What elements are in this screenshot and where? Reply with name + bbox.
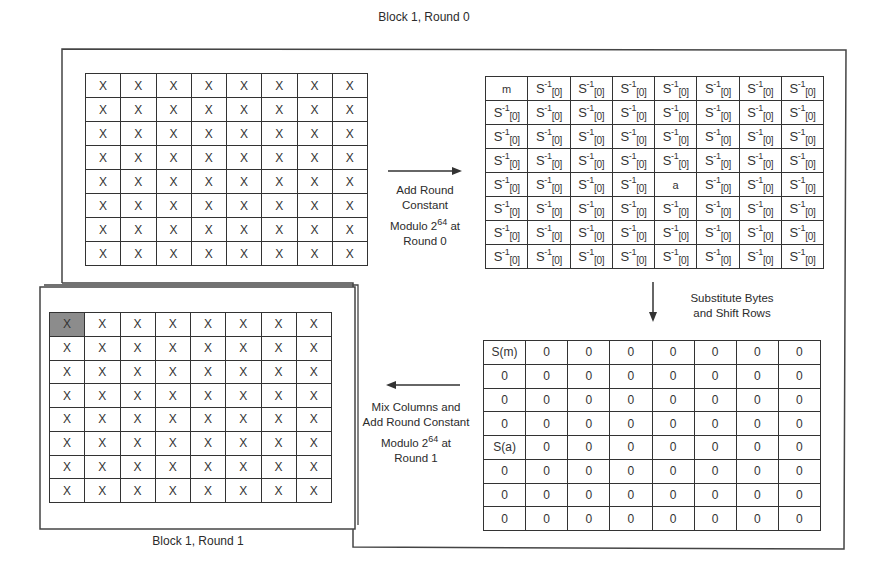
grid-cell: X	[262, 98, 297, 122]
grid-cell: X	[297, 122, 332, 146]
grid-cell: X	[85, 479, 120, 503]
grid-row: 00000000	[484, 388, 821, 412]
inverse-sbox-value: S-1[0]	[578, 153, 604, 168]
grid-cell: S-1[0]	[570, 197, 612, 221]
grid-cell: S-1[0]	[739, 197, 781, 221]
grid-cell: 0	[526, 388, 568, 412]
grid-cell: X	[191, 122, 226, 146]
grid-cell: S-1[0]	[655, 101, 697, 125]
inverse-sbox-value: S-1[0]	[536, 249, 562, 264]
grid-cell: 0	[568, 436, 610, 460]
grid-cell: X	[297, 98, 332, 122]
inverse-sbox-value: S-1[0]	[536, 81, 562, 96]
grid-cell: S-1[0]	[486, 149, 528, 173]
grid-cell: 0	[652, 483, 694, 507]
grid-cell: X	[332, 74, 367, 98]
inverse-sbox-value: S-1[0]	[789, 153, 815, 168]
inverse-sbox-value: S-1[0]	[620, 225, 646, 240]
inverse-sbox-value: S-1[0]	[494, 225, 520, 240]
inverse-sbox-value: S-1[0]	[705, 225, 731, 240]
grid-cell: X	[296, 336, 331, 360]
inverse-sbox-value: S-1[0]	[620, 201, 646, 216]
inverse-sbox-value: S-1[0]	[620, 81, 646, 96]
grid-cell: X	[191, 242, 226, 266]
grid-cell: X	[191, 74, 226, 98]
grid-round0-state: mS-1[0]S-1[0]S-1[0]S-1[0]S-1[0]S-1[0]S-1…	[485, 76, 824, 269]
grid-cell: X	[227, 74, 262, 98]
inverse-sbox-value: S-1[0]	[578, 249, 604, 264]
grid-cell: X	[50, 455, 85, 479]
grid-cell: 0	[610, 459, 652, 483]
grid-cell: 0	[526, 436, 568, 460]
grid-cell: S-1[0]	[612, 245, 654, 269]
grid-cell: X	[85, 313, 120, 337]
grid-cell: 0	[568, 459, 610, 483]
grid-cell: 0	[526, 459, 568, 483]
grid-cell: X	[227, 218, 262, 242]
inverse-sbox-value: S-1[0]	[747, 225, 773, 240]
grid-cell: X	[121, 146, 156, 170]
grid-cell: 0	[652, 436, 694, 460]
grid-cell: 0	[694, 436, 736, 460]
grid-cell: S-1[0]	[781, 197, 823, 221]
grid-cell: S-1[0]	[655, 77, 697, 101]
grid-cell: S-1[0]	[655, 245, 697, 269]
inverse-sbox-value: S-1[0]	[789, 249, 815, 264]
inverse-sbox-value: S-1[0]	[494, 129, 520, 144]
grid-row: S-1[0]S-1[0]S-1[0]S-1[0]S-1[0]S-1[0]S-1[…	[486, 149, 824, 173]
grid-cell: X	[262, 170, 297, 194]
inverse-sbox-value: S-1[0]	[705, 105, 731, 120]
grid-cell: S(a)	[484, 436, 526, 460]
grid-cell: X	[227, 146, 262, 170]
grid-cell: S-1[0]	[697, 173, 739, 197]
grid-cell: X	[227, 122, 262, 146]
grid-cell: X	[332, 170, 367, 194]
grid-cell: X	[86, 170, 121, 194]
grid-row: S-1[0]S-1[0]S-1[0]S-1[0]S-1[0]S-1[0]S-1[…	[486, 101, 824, 125]
grid-cell: S-1[0]	[781, 245, 823, 269]
grid-cell: X	[261, 455, 296, 479]
inverse-sbox-value: S-1[0]	[536, 129, 562, 144]
grid-cell: S-1[0]	[739, 149, 781, 173]
inverse-sbox-value: S-1[0]	[578, 129, 604, 144]
inverse-sbox-value: S-1[0]	[663, 201, 689, 216]
grid-row: S-1[0]S-1[0]S-1[0]S-1[0]S-1[0]S-1[0]S-1[…	[486, 245, 824, 269]
grid-row: XXXXXXXX	[50, 313, 332, 337]
grid-cell: S-1[0]	[655, 149, 697, 173]
grid-cell: X	[85, 455, 120, 479]
grid-cell: S-1[0]	[697, 101, 739, 125]
grid-row: XXXXXXXX	[86, 146, 368, 170]
grid-cell: X	[121, 98, 156, 122]
grid-row: S-1[0]S-1[0]S-1[0]S-1[0]S-1[0]S-1[0]S-1[…	[486, 221, 824, 245]
grid-row: 00000000	[484, 483, 821, 507]
grid-cell: 0	[526, 364, 568, 388]
grid-cell: 0	[652, 459, 694, 483]
inverse-sbox-value: S-1[0]	[705, 129, 731, 144]
grid-cell: 0	[568, 364, 610, 388]
grid-row: 00000000	[484, 364, 821, 388]
inverse-sbox-value: S-1[0]	[494, 153, 520, 168]
grid-cell: X	[120, 479, 155, 503]
inverse-sbox-value: S-1[0]	[663, 129, 689, 144]
step3-line2: Add Round Constant	[360, 415, 472, 430]
grid-cell: X	[191, 431, 226, 455]
inverse-sbox-value: S-1[0]	[789, 225, 815, 240]
grid-cell: S-1[0]	[697, 149, 739, 173]
inverse-sbox-value: S-1[0]	[663, 153, 689, 168]
arrow-down-icon	[649, 282, 657, 322]
grid-cell: X	[120, 336, 155, 360]
inverse-sbox-value: S-1[0]	[789, 129, 815, 144]
grid-cell: 0	[568, 507, 610, 531]
grid-cell: X	[261, 479, 296, 503]
grid-cell: X	[297, 242, 332, 266]
inverse-sbox-value: S-1[0]	[494, 177, 520, 192]
inverse-sbox-value: S-1[0]	[578, 105, 604, 120]
grid-cell: X	[261, 336, 296, 360]
step1-line4: Round 0	[380, 234, 470, 249]
grid-cell: X	[332, 194, 367, 218]
grid-cell: 0	[484, 459, 526, 483]
grid-row: S(a)0000000	[484, 436, 821, 460]
grid-cell: X	[226, 455, 261, 479]
grid-round1-state: XXXXXXXXXXXXXXXXXXXXXXXXXXXXXXXXXXXXXXXX…	[49, 312, 332, 503]
grid-cell: 0	[568, 341, 610, 365]
